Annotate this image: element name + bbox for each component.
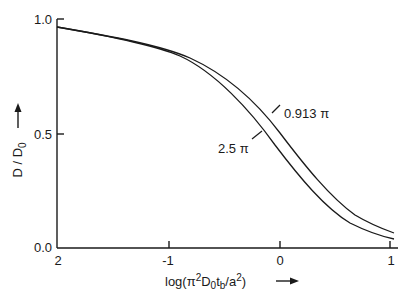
curve-25pi xyxy=(57,27,394,239)
annotation-25pi: 2.5 π xyxy=(218,141,249,156)
y-tick-label-0: 0.0 xyxy=(34,240,52,255)
x-axis-arrow xyxy=(276,278,299,285)
x-tick-label-m1: -1 xyxy=(162,253,174,268)
y-axis-label: D / D0 xyxy=(10,142,28,178)
y-tick-label-1: 1.0 xyxy=(34,12,52,27)
x-axis-label: log(π2D0tb/a2) xyxy=(165,272,246,291)
x-tick-label-0: 0 xyxy=(276,253,283,268)
x-tick-label-1: 1 xyxy=(387,253,394,268)
chart: 1.0 0.5 0.0 2 -1 0 1 0.913 π 2.5 π D / D… xyxy=(0,0,409,296)
annotation-0913pi: 0.913 π xyxy=(284,106,329,121)
leader-0913pi xyxy=(272,105,280,113)
y-axis-arrow xyxy=(15,103,22,128)
leader-25pi xyxy=(252,131,262,139)
y-tick-label-05: 0.5 xyxy=(34,127,52,142)
x-tick-label-m2: 2 xyxy=(54,253,61,268)
curve-0913pi xyxy=(57,27,394,233)
svg-text:D / D0: D / D0 xyxy=(10,142,28,178)
